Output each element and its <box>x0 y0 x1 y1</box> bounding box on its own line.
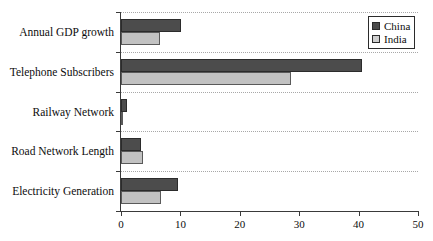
y-axis-tick <box>116 92 121 93</box>
x-axis-tick <box>121 211 122 216</box>
gridline <box>121 52 418 53</box>
legend-label-china: China <box>384 20 410 32</box>
legend-swatch-china-icon <box>372 22 380 30</box>
x-axis-tick-label: 30 <box>284 218 314 230</box>
x-axis-tick-label: 0 <box>106 218 136 230</box>
y-axis-tick <box>116 131 121 132</box>
gridline <box>121 131 418 132</box>
category-label-annual-gdp-growth: Annual GDP growth <box>0 26 114 38</box>
x-axis-tick-label: 10 <box>165 218 195 230</box>
legend-item-india: India <box>372 32 410 45</box>
gridline <box>121 92 418 93</box>
x-axis-tick <box>418 211 419 216</box>
x-axis-tick <box>180 211 181 216</box>
bar-india-electricity-generation <box>121 191 161 204</box>
category-label-telephone-subscribers: Telephone Subscribers <box>0 66 114 78</box>
category-axis-labels: Annual GDP growth Telephone Subscribers … <box>0 12 118 211</box>
y-axis-line <box>120 12 121 211</box>
x-axis-tick <box>240 211 241 216</box>
category-label-electricity-generation: Electricity Generation <box>0 185 114 197</box>
bar-china-annual-gdp-growth <box>121 19 181 32</box>
y-axis-tick <box>116 171 121 172</box>
category-label-railway-network: Railway Network <box>0 106 114 118</box>
y-axis-tick <box>116 52 121 53</box>
bar-india-telephone-subscribers <box>121 72 291 85</box>
legend-label-india: India <box>384 33 407 45</box>
legend-item-china: China <box>372 19 410 32</box>
x-axis-tick <box>299 211 300 216</box>
x-axis-tick-label: 50 <box>403 218 433 230</box>
bar-china-telephone-subscribers <box>121 59 362 72</box>
gridline <box>121 171 418 172</box>
bar-china-electricity-generation <box>121 178 178 191</box>
x-axis-tick-label: 20 <box>225 218 255 230</box>
x-axis-line <box>120 211 419 212</box>
x-axis-tick-label: 40 <box>344 218 374 230</box>
bar-chart: Annual GDP growth Telephone Subscribers … <box>0 0 433 241</box>
bar-india-railway-network <box>121 112 123 125</box>
bar-india-road-network-length <box>121 151 143 164</box>
legend: China India <box>368 16 415 49</box>
bar-china-road-network-length <box>121 138 141 151</box>
category-label-road-network-length: Road Network Length <box>0 145 114 157</box>
x-axis-tick <box>359 211 360 216</box>
bar-china-railway-network <box>121 99 127 112</box>
legend-swatch-india-icon <box>372 35 380 43</box>
bar-india-annual-gdp-growth <box>121 32 160 45</box>
y-axis-tick <box>116 12 121 13</box>
gridline <box>121 12 418 13</box>
